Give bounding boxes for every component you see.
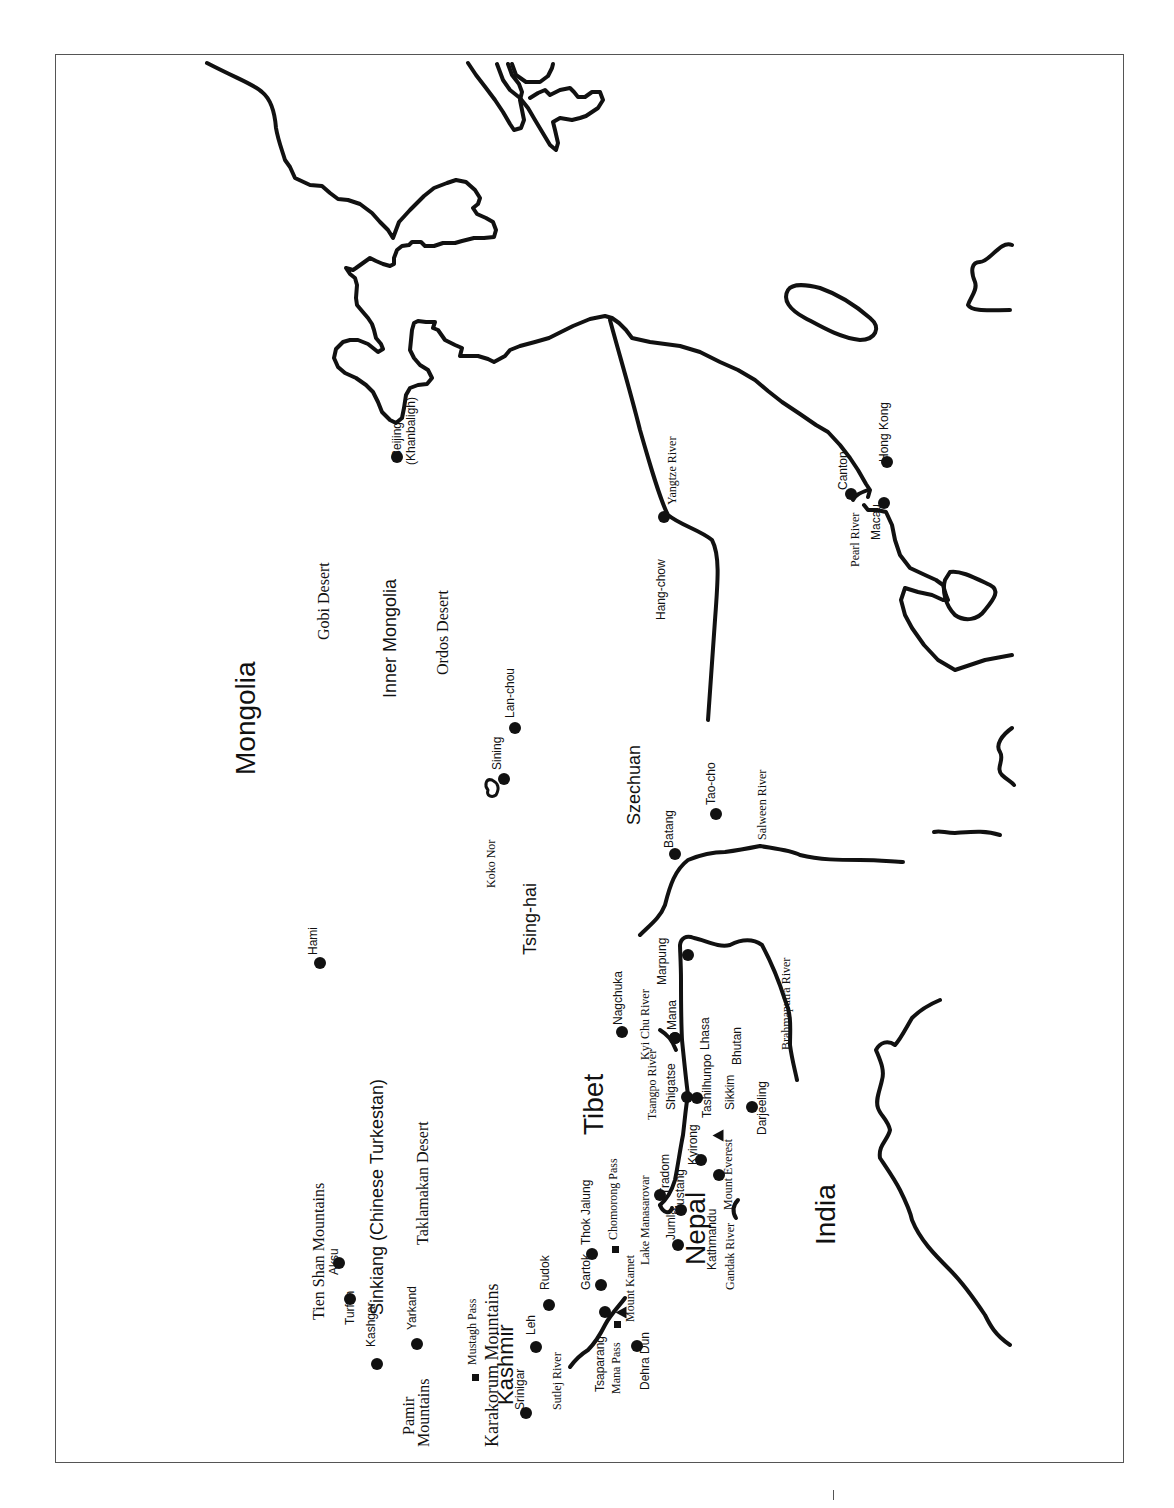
region-label-tibet: Tibet	[580, 1074, 608, 1135]
page-tick-mark	[833, 1490, 834, 1500]
river-label-tsangpo-river: Tsangpo River	[646, 1050, 658, 1120]
city-marker-icon	[371, 1358, 383, 1370]
city-marker-icon	[669, 848, 681, 860]
region-label-tien-shan: Tien Shan Mountains	[311, 1183, 327, 1320]
region-label-gobi: Gobi Desert	[316, 562, 332, 640]
city-label-beijing: Beijing	[391, 422, 403, 458]
city-label-marpung: Marpung	[656, 938, 668, 985]
region-label-pamir-2: Mountains	[416, 1379, 432, 1447]
city-label-mustang: Mustang	[674, 1169, 686, 1215]
city-label-srinigar: Srinigar	[514, 1369, 526, 1410]
city-label-tsaparang: Tsaparang	[594, 1336, 606, 1392]
river-label-pearl-river: Pearl River	[849, 513, 861, 567]
region-label-inner-mongolia: Inner Mongolia	[381, 579, 399, 698]
city-marker-icon	[411, 1338, 423, 1350]
pass-marker-icon	[612, 1246, 619, 1253]
city-label-lhasa: Lhasa	[699, 1017, 711, 1050]
region-label-szechuan: Szechuan	[625, 745, 643, 825]
city-marker-icon	[586, 1248, 598, 1260]
region-label-ordos: Ordos Desert	[435, 590, 451, 675]
city-label-sining: Sining	[491, 737, 503, 770]
city-label-shigatse: Shigatse	[665, 1063, 677, 1110]
city-marker-icon	[543, 1299, 555, 1311]
island-hainan	[944, 572, 996, 619]
city-label-leh: Leh	[525, 1315, 537, 1335]
coastline-burma	[934, 831, 1000, 835]
city-label-darjeeling: Darjeeling	[756, 1081, 768, 1135]
city-marker-icon	[682, 949, 694, 961]
city-marker-icon	[710, 808, 722, 820]
city-marker-icon	[658, 511, 670, 523]
city-label-thok-jalung: Thok Jalung	[580, 1180, 592, 1245]
river-salween	[640, 846, 903, 935]
city-label-hami: Hami	[307, 927, 319, 955]
city-marker-icon	[599, 1306, 611, 1318]
city-label-nagchuka: Nagchuka	[612, 971, 624, 1025]
region-label-mongolia: Mongolia	[232, 661, 260, 775]
city-label-yarkand: Yarkand	[406, 1286, 418, 1330]
city-label-aksu: Aksu	[328, 1248, 340, 1275]
city-label-bhutan: Bhutan	[731, 1027, 743, 1065]
city-label-kyirong: Kyirong	[687, 1124, 699, 1165]
city-label-tao-cho: Tao-cho	[705, 762, 717, 805]
region-label-taklamakan: Taklamakan Desert	[415, 1121, 431, 1245]
city-marker-icon	[595, 1279, 607, 1291]
region-label-koko-nor: Koko Nor	[485, 840, 497, 888]
river-label-yangtze-river: Yangtze River	[666, 437, 678, 505]
lake-koko-nor	[486, 780, 498, 797]
city-marker-icon	[509, 722, 521, 734]
city-label-tradom: Tradom	[659, 1154, 671, 1195]
pass-label-mana-pass: Mana Pass	[610, 1342, 622, 1394]
city-marker-icon	[672, 1239, 684, 1251]
coastline-korea-c	[512, 64, 553, 82]
pass-label-chomorong-pass: Chomorong Pass	[607, 1158, 619, 1240]
coastline-indochina	[998, 728, 1014, 785]
river-label-lake-manasarovar: Lake Manasarovar	[639, 1175, 651, 1265]
region-label-sinkiang: Sinkiang (Chinese Turkestan)	[368, 1079, 386, 1315]
pass-marker-icon	[472, 1374, 479, 1381]
city-marker-icon	[314, 957, 326, 969]
coastline-south	[864, 505, 1012, 670]
river-label-salween-river: Salween River	[756, 770, 768, 840]
city-label-lan-chou: Lan-chou	[504, 668, 516, 718]
city-sublabel-khanbaligh: (Khanbaligh)	[405, 397, 417, 465]
region-label-india: India	[812, 1184, 840, 1245]
city-label-kathmandu: Kathmandu	[706, 1209, 718, 1270]
city-label-canton: Canton	[837, 451, 849, 490]
city-label-macau: Macau	[870, 504, 882, 540]
city-label-kashgar: Kashgar	[365, 1302, 377, 1347]
city-marker-icon	[669, 1032, 681, 1044]
pass-label-mustagh-pass: Mustagh Pass	[466, 1299, 478, 1365]
city-marker-icon	[616, 1026, 628, 1038]
city-label-sikkim: Sikkim	[724, 1075, 736, 1110]
city-label-dehra-dun: Dehra Dun	[639, 1332, 651, 1390]
city-marker-icon	[498, 773, 510, 785]
peak-label-mount-kamet: Mount Kamet	[624, 1255, 636, 1322]
peak-label-mount-everest: Mount Everest	[722, 1139, 734, 1210]
city-label-tashilhunpo: Tashilhunpo	[701, 1054, 713, 1118]
city-marker-icon	[530, 1341, 542, 1353]
river-label-sutlej-river: Sutlej River	[551, 1352, 563, 1410]
river-label-gandak-river: Gandak River	[724, 1223, 736, 1290]
city-label-batang: Batang	[663, 810, 675, 848]
coastline-japan	[968, 244, 1012, 310]
river-label-kyi-chu-river: Kyi Chu River	[639, 989, 651, 1060]
city-label-hang-chow: Hang-chow	[655, 559, 667, 620]
coastline-india	[876, 1000, 1010, 1345]
river-label-brahmaputra-river: Brahmaputra River	[780, 958, 792, 1050]
city-label-turfan: Turfan	[344, 1291, 356, 1325]
city-label-hong-kong: Hong Kong	[878, 402, 890, 462]
city-label-rudok: Rudok	[539, 1255, 551, 1290]
city-label-mana: Mana	[666, 1000, 678, 1030]
island-taiwan	[786, 285, 876, 340]
region-label-tsing-hai: Tsing-hai	[521, 883, 539, 955]
region-label-karakorum: Karakorum Mountains	[483, 1284, 501, 1447]
pass-marker-icon	[614, 1321, 621, 1328]
